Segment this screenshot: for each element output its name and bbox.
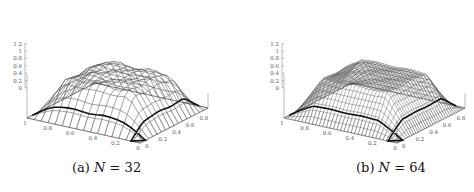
z-tick-label: 1.2 bbox=[13, 41, 22, 47]
z-tick-label: 0.4 bbox=[13, 70, 22, 76]
caption-a: (a) N = 32 bbox=[72, 160, 141, 175]
y-tick-label: 0 bbox=[145, 143, 149, 149]
y-tick-label: 0.4 bbox=[429, 129, 438, 135]
x-tick-label: 0 bbox=[136, 145, 140, 151]
front-curtain bbox=[284, 103, 465, 143]
axes-frame: 00.20.40.60.811.210.80.60.40.2000.20.40.… bbox=[13, 41, 208, 151]
surface-plot-b: 00.20.40.60.811.210.80.60.40.2000.20.40.… bbox=[237, 0, 474, 160]
x-tick-label: 0.4 bbox=[88, 135, 97, 141]
z-tick-label: 0.2 bbox=[270, 78, 279, 84]
panel-a: 00.20.40.60.811.210.80.60.40.2000.20.40.… bbox=[0, 0, 237, 192]
axes-frame: 00.20.40.60.811.210.80.60.40.2000.20.40.… bbox=[270, 41, 465, 151]
y-tick-label: 0.4 bbox=[172, 129, 181, 135]
x-tick-label: 0.8 bbox=[300, 125, 309, 131]
x-tick-label: 0.2 bbox=[368, 140, 377, 146]
x-tick-label: 0.6 bbox=[323, 130, 332, 136]
z-tick-label: 1.2 bbox=[270, 41, 279, 47]
x-tick-label: 1 bbox=[280, 120, 284, 126]
y-tick-label: 0.8 bbox=[199, 115, 208, 121]
x-tick-label: 0.4 bbox=[345, 135, 354, 141]
y-tick-label: 0.2 bbox=[159, 136, 168, 142]
z-tick-label: 0.4 bbox=[270, 70, 279, 76]
x-tick-label: 1 bbox=[23, 120, 27, 126]
y-tick-label: 0.6 bbox=[186, 122, 195, 128]
caption-a-variable: N bbox=[94, 160, 105, 175]
z-tick-label: 1 bbox=[276, 48, 280, 54]
z-tick-label: 0.8 bbox=[13, 55, 22, 61]
caption-b-label: (b) bbox=[356, 160, 374, 175]
caption-b: (b) N = 64 bbox=[356, 160, 426, 175]
surface-plot-a: 00.20.40.60.811.210.80.60.40.2000.20.40.… bbox=[0, 0, 237, 160]
caption-b-variable: N bbox=[379, 160, 390, 175]
z-tick-label: 0 bbox=[276, 85, 280, 91]
panel-b: 00.20.40.60.811.210.80.60.40.2000.20.40.… bbox=[237, 0, 474, 192]
caption-a-value: 32 bbox=[125, 160, 142, 175]
y-tick-label: 0.8 bbox=[456, 115, 465, 121]
caption-a-label: (a) bbox=[72, 160, 90, 175]
z-tick-label: 0.2 bbox=[13, 78, 22, 84]
z-tick-label: 0.6 bbox=[13, 63, 22, 69]
caption-a-equals: = bbox=[110, 160, 121, 175]
y-tick-label: 0.2 bbox=[416, 136, 425, 142]
x-tick-label: 0.8 bbox=[43, 125, 52, 131]
x-tick-label: 0 bbox=[393, 145, 397, 151]
x-tick-label: 0.2 bbox=[111, 140, 120, 146]
z-tick-label: 0.8 bbox=[270, 55, 279, 61]
y-tick-label: 0 bbox=[402, 143, 406, 149]
z-tick-label: 1 bbox=[19, 48, 23, 54]
caption-b-equals: = bbox=[394, 160, 405, 175]
caption-b-value: 64 bbox=[409, 160, 426, 175]
z-tick-label: 0 bbox=[19, 85, 23, 91]
z-tick-label: 0.6 bbox=[270, 63, 279, 69]
y-tick-label: 0.6 bbox=[443, 122, 452, 128]
x-tick-label: 0.6 bbox=[66, 130, 75, 136]
